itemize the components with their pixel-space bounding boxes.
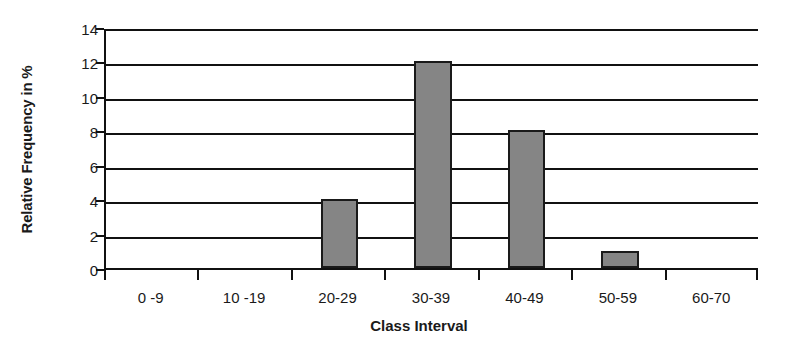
x-axis-tick-label: 30-39 [384,288,477,308]
x-axis-tick-label: 40-49 [478,288,571,308]
plot-area [104,29,758,270]
y-axis-tick-label: 4 [64,194,98,209]
x-axis-tick-mark [104,270,106,280]
bars-layer [106,31,758,268]
x-axis-tick-mark [197,270,199,280]
x-axis-tick-label: 60-70 [665,288,758,308]
x-axis-title: Class Interval [104,316,734,336]
y-axis-tick-mark [96,62,104,64]
bar-cell [386,31,479,268]
x-axis-tick-mark [571,270,573,280]
bar [321,199,358,268]
y-axis-tick-mark [96,166,104,168]
x-axis-tick-label: 10 -19 [197,288,290,308]
y-axis-tick-label: 8 [64,125,98,140]
x-axis-tick-mark [291,270,293,280]
y-axis-tick-mark [96,269,104,271]
bar [508,130,545,268]
bar [601,251,638,268]
x-axis-tick-mark [478,270,480,280]
bar-cell [480,31,573,268]
bar-cell [573,31,666,268]
bar-cell [667,31,760,268]
y-axis-tick-label: 2 [64,228,98,243]
x-axis-tick-mark [756,270,758,280]
x-axis-tick-label: 20-29 [291,288,384,308]
y-axis-tick-marks [96,29,104,270]
y-axis-tick-mark [96,131,104,133]
y-axis-tick-label: 12 [64,56,98,71]
x-axis-tick-mark [665,270,667,280]
x-axis-tick-mark [384,270,386,280]
x-axis-tick-labels: 0 -910 -1920-2930-3940-4950-5960-70 [104,288,758,310]
bar-cell [106,31,199,268]
bar-cell [199,31,292,268]
x-axis-tick-label: 0 -9 [104,288,197,308]
y-axis-tick-label: 10 [64,90,98,105]
y-axis-tick-label: 0 [64,263,98,278]
y-axis-tick-mark [96,235,104,237]
y-axis-tick-labels: 02468101214 [56,29,98,270]
bar-cell [293,31,386,268]
x-axis-tick-marks [104,270,758,280]
histogram-chart: Relative Frequency in % 02468101214 0 -9… [0,0,785,355]
y-axis-tick-label: 14 [64,22,98,37]
y-axis-tick-label: 6 [64,159,98,174]
y-axis-title: Relative Frequency in % [14,29,40,270]
y-axis-tick-mark [96,28,104,30]
y-axis-tick-mark [96,200,104,202]
y-axis-tick-mark [96,97,104,99]
x-axis-tick-label: 50-59 [571,288,664,308]
bar [414,61,451,268]
